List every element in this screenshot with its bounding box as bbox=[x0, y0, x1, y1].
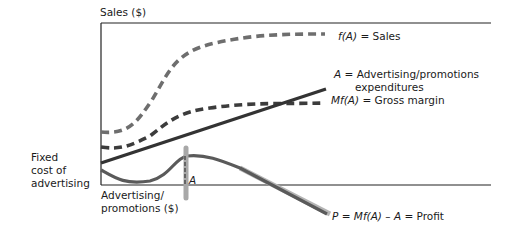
sales-legend-text: = Sales bbox=[357, 30, 400, 42]
profit-legend-minus: – bbox=[382, 210, 394, 222]
advertising-legend-text: = Advertising/promotions bbox=[341, 68, 479, 80]
profit-legend-text: = Profit bbox=[401, 210, 444, 222]
y-axis-label: Sales ($) bbox=[100, 6, 146, 19]
gross-margin-legend-text: = Gross margin bbox=[359, 94, 444, 106]
advertising-line bbox=[101, 89, 326, 163]
chart-canvas bbox=[0, 0, 518, 228]
fixed-cost-line1: Fixed bbox=[31, 151, 90, 164]
gross-margin-legend: Mf(A) = Gross margin bbox=[331, 94, 445, 107]
profit-legend: P = Mf(A) – A = Profit bbox=[332, 210, 444, 223]
advertising-legend-line2: expenditures bbox=[355, 81, 424, 94]
advertising-legend: A = Advertising/promotions bbox=[334, 68, 479, 81]
x-axis-label: Advertising/ promotions ($) bbox=[101, 189, 179, 215]
fixed-cost-line3: advertising bbox=[31, 177, 90, 190]
x-axis-line2: promotions ($) bbox=[101, 202, 179, 215]
fixed-cost-label: Fixed cost of advertising bbox=[31, 151, 90, 190]
profit-legend-eq: = bbox=[338, 210, 353, 222]
fixed-cost-line2: cost of bbox=[31, 164, 90, 177]
sales-legend: f(A) = Sales bbox=[338, 30, 401, 43]
profit-legend-mf: Mf(A) bbox=[354, 210, 382, 222]
sales-legend-symbol: f(A) bbox=[338, 30, 357, 42]
optimum-marker-label: A bbox=[189, 174, 196, 187]
sales-curve bbox=[101, 34, 325, 132]
x-axis-line1: Advertising/ bbox=[101, 189, 179, 202]
gross-margin-legend-symbol: Mf(A) bbox=[331, 94, 359, 106]
